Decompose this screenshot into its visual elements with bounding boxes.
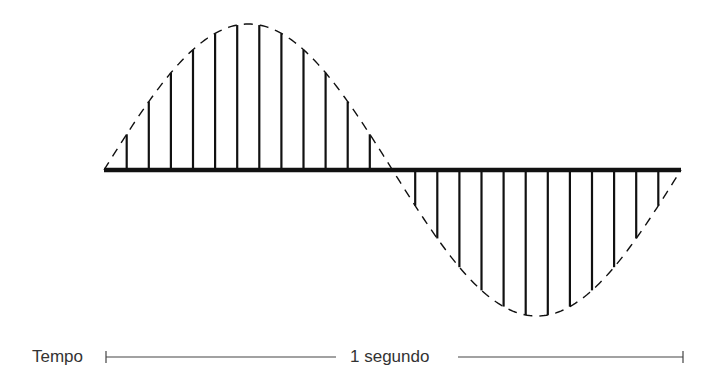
time-label: Tempo bbox=[32, 347, 83, 367]
sampled-sine-wave-diagram bbox=[0, 0, 720, 388]
duration-label: 1 segundo bbox=[344, 347, 435, 367]
